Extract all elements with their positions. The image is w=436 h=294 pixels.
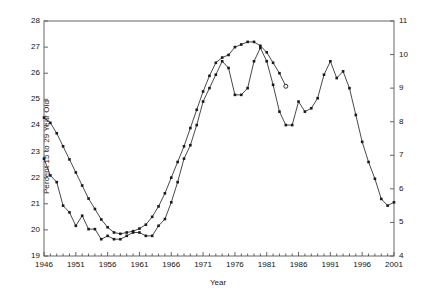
series-point-marker: [272, 61, 275, 64]
axis-ticks: [44, 21, 394, 256]
y-tick-label-right: 7: [399, 150, 421, 159]
series-line: [44, 48, 394, 239]
series-point-marker: [106, 235, 109, 238]
y-tick-label-right: 11: [399, 16, 421, 25]
series-1: [43, 41, 288, 236]
series-point-marker: [342, 70, 345, 73]
series-point-marker: [316, 97, 319, 100]
series-point-marker: [215, 61, 218, 64]
series-point-marker: [310, 107, 313, 110]
series-point-marker: [208, 87, 211, 90]
series-point-marker: [170, 176, 173, 179]
series-point-marker: [348, 87, 351, 90]
series-point-marker: [227, 67, 230, 70]
series-point-marker: [164, 218, 167, 221]
series-point-marker: [221, 56, 224, 59]
series-point-marker: [176, 161, 179, 164]
series-point-marker: [265, 60, 268, 63]
series-point-marker: [183, 157, 186, 160]
series-point-marker: [278, 110, 281, 113]
series-point-marker: [87, 197, 90, 200]
series-point-marker: [361, 141, 364, 144]
y-tick-label-right: 10: [399, 50, 421, 59]
series-2: [43, 47, 396, 241]
series-point-marker: [355, 114, 358, 117]
y-tick-label-left: 27: [18, 42, 40, 51]
series-point-marker: [43, 157, 46, 160]
series-point-marker: [253, 60, 256, 63]
y-tick-label-left: 19: [18, 251, 40, 260]
series-point-marker: [125, 231, 128, 234]
series-point-marker: [285, 124, 288, 127]
series-point-marker: [62, 204, 65, 207]
series-point-marker: [246, 41, 249, 44]
series-point-marker: [49, 122, 52, 125]
series-point-marker: [81, 184, 84, 187]
series-point-marker: [189, 144, 192, 147]
series-point-marker: [132, 231, 135, 234]
series-point-marker: [176, 181, 179, 184]
series-point-marker: [113, 238, 116, 241]
series-point-marker: [195, 108, 198, 111]
series-point-marker: [75, 171, 78, 174]
series-point-marker: [55, 181, 58, 184]
series-point-marker: [55, 132, 58, 135]
series-point-marker: [125, 235, 128, 238]
series-point-marker: [119, 238, 122, 241]
series-point-marker: [323, 73, 326, 76]
series-point-marker: [183, 145, 186, 148]
x-tick-label: 2001: [374, 260, 414, 269]
y-tick-label-left: 28: [18, 16, 40, 25]
y-tick-label-right: 4: [399, 251, 421, 260]
series-point-marker: [170, 201, 173, 204]
series-point-marker: [393, 201, 396, 204]
series-point-marker: [106, 226, 109, 229]
series-point-marker: [386, 204, 389, 207]
series-point-marker: [202, 90, 205, 93]
series-point-marker: [265, 51, 268, 54]
series-point-marker: [374, 177, 377, 180]
series-point-marker: [291, 124, 294, 127]
series-point-marker: [138, 231, 141, 234]
series-point-marker: [49, 174, 52, 177]
series-point-marker: [297, 100, 300, 103]
series-line: [44, 42, 286, 234]
y-tick-label-left: 21: [18, 199, 40, 208]
series-point-marker: [208, 75, 211, 78]
series-point-marker: [329, 60, 332, 63]
series-point-marker: [81, 214, 84, 217]
series-point-marker: [259, 47, 262, 50]
series-point-marker: [157, 205, 160, 208]
y-tick-label-left: 25: [18, 94, 40, 103]
y-tick-label-right: 9: [399, 83, 421, 92]
plot-canvas: [0, 0, 436, 294]
chart-figure: Percent 15 to 29 Year Old Murder Rate Ye…: [0, 0, 436, 294]
plot-frame: [44, 21, 394, 256]
series-point-marker: [189, 127, 192, 130]
series-point-marker: [278, 72, 281, 75]
series-point-marker: [221, 60, 224, 63]
series-point-marker: [234, 94, 237, 97]
series-point-marker: [100, 218, 103, 221]
series-point-marker: [157, 224, 160, 227]
series-point-marker: [227, 54, 230, 57]
series-point-marker: [215, 73, 218, 76]
series-point-marker: [94, 228, 97, 231]
y-tick-label-left: 26: [18, 68, 40, 77]
y-tick-label-right: 5: [399, 217, 421, 226]
series-point-marker: [367, 161, 370, 164]
series-point-marker: [246, 87, 249, 90]
series-endpoint-marker: [284, 84, 288, 88]
series-point-marker: [234, 46, 237, 49]
series-point-marker: [113, 231, 116, 234]
data-series-group: [43, 41, 396, 241]
series-point-marker: [164, 192, 167, 195]
y-tick-label-left: 22: [18, 173, 40, 182]
series-point-marker: [87, 228, 90, 231]
series-point-marker: [253, 41, 256, 44]
series-point-marker: [145, 235, 148, 238]
series-point-marker: [240, 43, 243, 46]
y-tick-label-left: 23: [18, 147, 40, 156]
series-point-marker: [202, 100, 205, 103]
series-point-marker: [119, 233, 122, 236]
